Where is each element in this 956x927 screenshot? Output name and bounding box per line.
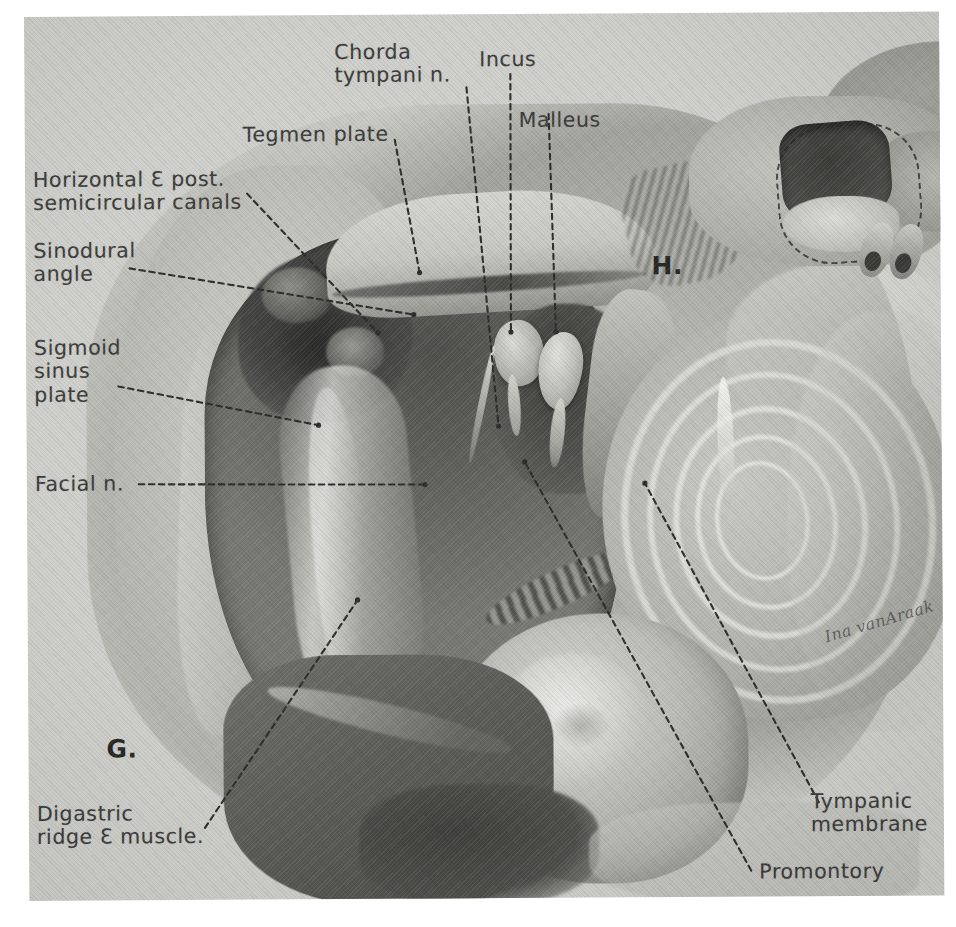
label-sigmoid-sinus-plate: Sigmoid sinus plate: [34, 336, 122, 407]
label-tegmen-plate: Tegmen plate: [243, 123, 389, 147]
label-chorda-tympani: Chorda tympani n.: [334, 40, 451, 87]
figure-letter-g: G.: [106, 734, 137, 763]
label-semicircular-canals: Horizontal Ɛ post. semicircular canals: [33, 168, 242, 216]
printed-plate: Chorda tympani n. Incus Malleus Tegmen p…: [24, 11, 944, 901]
label-digastric: Digastric ridge Ɛ muscle.: [37, 802, 204, 850]
label-malleus: Malleus: [519, 108, 601, 132]
label-tympanic-membrane: Tympanic membrane: [811, 789, 928, 836]
leader-lines: [24, 11, 944, 901]
label-facial-nerve: Facial n.: [35, 472, 124, 496]
label-promontory: Promontory: [759, 860, 884, 884]
label-incus: Incus: [479, 48, 536, 72]
label-sinodural-angle: Sinodural angle: [33, 239, 136, 286]
figure-letter-h: H.: [651, 251, 683, 280]
illustration-page: Chorda tympani n. Incus Malleus Tegmen p…: [0, 0, 956, 927]
